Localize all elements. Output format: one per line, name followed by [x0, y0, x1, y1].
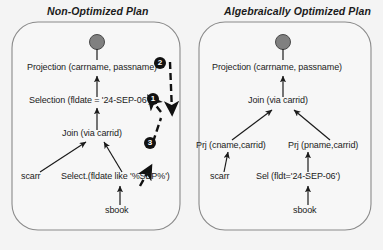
node-label-join-non-optimized: Join (via carrid)	[62, 128, 122, 138]
node-label-sbook-non-optimized: sbook	[105, 205, 129, 215]
node-label-selection-non-optimized: Selection (fldate = '24-SEP-06')	[29, 95, 151, 105]
root-node-dot-optimized	[276, 35, 291, 50]
node-label-sbook-optimized: sbook	[293, 205, 317, 215]
panel-frame-non-optimized	[12, 22, 180, 230]
node-label-select-like-non-optimized: Select.(fldate like '%SEP%')	[61, 171, 170, 181]
root-node-dot-non-optimized	[90, 35, 105, 50]
step-badge-1: 1	[147, 93, 159, 105]
node-label-join-optimized: Join (via carrid)	[248, 95, 308, 105]
node-label-sel-optimized: Sel (fldt='24-SEP-06')	[256, 171, 340, 181]
node-label-projection-optimized: Projection (carrname, passname)	[212, 62, 342, 72]
node-label-scarr-non-optimized: scarr	[21, 171, 41, 181]
panel-title-optimized: Algebraically Optimized Plan	[224, 5, 371, 17]
node-label-scarr-optimized: scarr	[210, 171, 230, 181]
step-badge-2: 2	[154, 57, 166, 69]
node-label-projection-non-optimized: Projection (carrname, passname)	[27, 62, 157, 72]
diagram-canvas: Non-Optimized Plan Algebraically Optimiz…	[0, 0, 383, 250]
node-label-prj-left-optimized: Prj (cname,carrid)	[196, 140, 266, 150]
panel-title-non-optimized: Non-Optimized Plan	[47, 5, 149, 17]
node-label-prj-right-optimized: Prj (pname,carrid)	[288, 140, 358, 150]
panel-frame-optimized	[199, 22, 371, 230]
diagram-vectors	[0, 0, 383, 250]
step-badge-3: 3	[144, 137, 156, 149]
